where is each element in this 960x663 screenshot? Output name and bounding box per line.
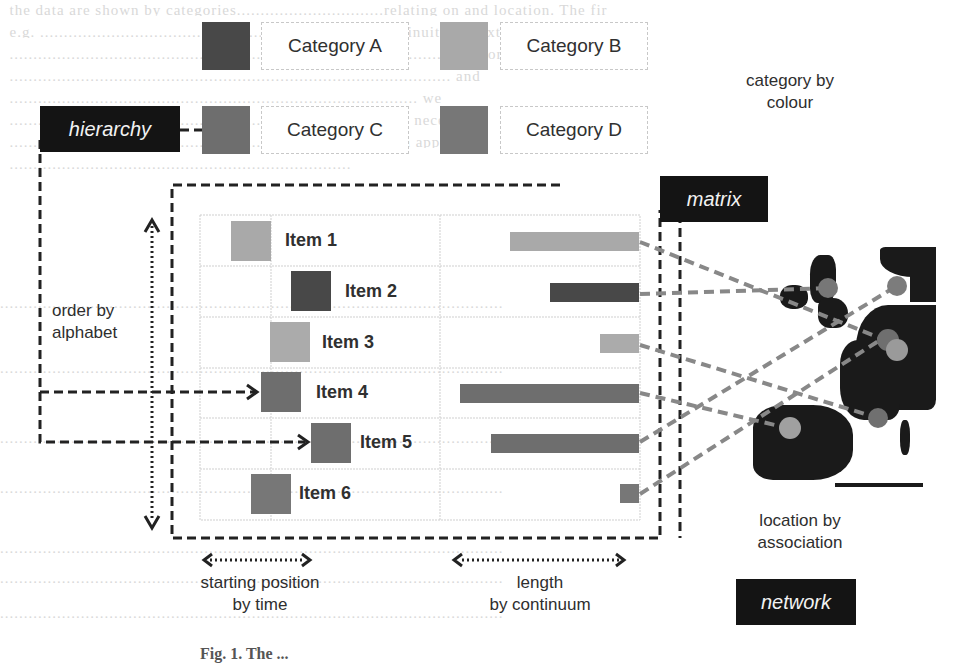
length-label: length by continuum: [460, 572, 620, 616]
item-2-label: Item 2: [345, 281, 397, 302]
item-4-bar: [460, 384, 639, 403]
swatch-category-d: [440, 106, 488, 154]
network-tag-text: network: [761, 591, 831, 614]
figure-caption-text: Fig. 1. The ...: [200, 645, 289, 662]
item-6-label: Item 6: [299, 483, 351, 504]
item-5-marker: [311, 423, 351, 463]
item-4-marker: [261, 372, 301, 412]
swatch-category-b: [440, 22, 488, 70]
item-1-marker: [231, 221, 271, 261]
item-3-marker: [270, 322, 310, 362]
item-2-bar: [550, 283, 639, 302]
location-label: location by association: [730, 510, 870, 554]
item-5-bar: [491, 434, 639, 453]
start-line-2: by time: [170, 594, 350, 616]
item-4-label: Item 4: [316, 382, 368, 403]
legend-label: Category A: [288, 35, 382, 57]
item-1-label: Item 1: [285, 230, 337, 251]
legend-category-c: Category C: [261, 106, 409, 154]
item-3-label: Item 3: [322, 332, 374, 353]
item-2-marker: [291, 271, 331, 311]
category-caption-text: category by colour: [735, 70, 845, 114]
item-5-label: Item 5: [360, 432, 412, 453]
item-6-bar: [620, 484, 639, 503]
swatch-category-c: [202, 106, 250, 154]
length-line-1: length: [460, 572, 620, 594]
order-by-alphabet-label: order by alphabet: [52, 300, 144, 344]
hierarchy-tag-text: hierarchy: [69, 118, 151, 141]
matrix-tag: matrix: [660, 176, 768, 222]
swatch-category-a: [202, 22, 250, 70]
hierarchy-tag: hierarchy: [40, 106, 180, 152]
legend-category-b: Category B: [500, 22, 648, 70]
length-line-2: by continuum: [460, 594, 620, 616]
item-6-marker: [251, 474, 291, 514]
location-dots: [779, 276, 908, 439]
location-line-2: association: [730, 532, 870, 554]
location-line-1: location by: [730, 510, 870, 532]
legend-label: Category C: [287, 119, 383, 141]
starting-position-label: starting position by time: [170, 572, 350, 616]
matrix-tag-text: matrix: [687, 188, 741, 211]
network-tag: network: [736, 579, 856, 625]
item-1-bar: [510, 232, 639, 251]
start-line-1: starting position: [170, 572, 350, 594]
item-3-bar: [600, 334, 639, 353]
order-line-2: alphabet: [52, 322, 144, 344]
legend-category-a: Category A: [261, 22, 409, 70]
legend-label: Category D: [526, 119, 622, 141]
category-caption: category by colour: [700, 70, 880, 114]
order-line-1: order by: [52, 300, 144, 322]
legend-label: Category B: [526, 35, 621, 57]
legend-category-d: Category D: [500, 106, 648, 154]
figure-caption: Fig. 1. The ...: [200, 645, 289, 663]
